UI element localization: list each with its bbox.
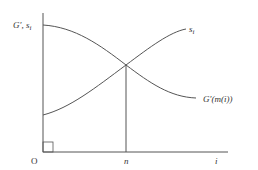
n-label: n: [124, 156, 129, 166]
s-i-curve: [43, 29, 186, 115]
origin-label: O: [31, 156, 38, 166]
x-axis-label: i: [215, 156, 218, 166]
y-axis-label: G′, si: [13, 20, 31, 32]
s-i-label: si: [189, 24, 195, 36]
g-prime-curve: [43, 25, 196, 98]
g-prime-label: G′(m(i)): [203, 94, 232, 104]
diagram-canvas: G′, si si G′(m(i)) O n i: [0, 0, 258, 170]
right-angle-marker: [43, 142, 53, 152]
